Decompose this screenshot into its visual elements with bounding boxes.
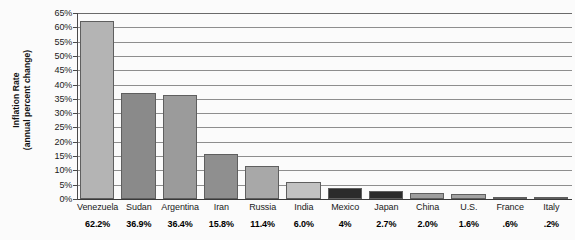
- y-axis-tick-label: 60%: [55, 22, 72, 32]
- y-axis-tick-mark: [73, 56, 77, 57]
- y-axis-title-line1: Inflation Rate: [11, 72, 21, 127]
- category-label: Japan: [366, 201, 407, 214]
- y-axis-tick-label: 55%: [55, 37, 72, 47]
- x-axis-labels-row: Venezuela62.2%Sudan36.9%Argentina36.4%Ir…: [77, 201, 572, 240]
- category-label: Mexico: [325, 201, 366, 214]
- y-axis-tick-mark: [73, 42, 77, 43]
- x-axis-label-cell: France.6%: [490, 201, 531, 231]
- x-axis-label-cell: Iran15.8%: [201, 201, 242, 231]
- x-axis-label-cell: Mexico4%: [325, 201, 366, 231]
- bar-value-label: 6.0%: [283, 217, 324, 231]
- category-label: France: [490, 201, 531, 214]
- y-axis-tick-label: 25%: [55, 122, 72, 132]
- x-axis-label-cell: U.S.1.6%: [448, 201, 489, 231]
- x-axis-label-cell: Argentina36.4%: [160, 201, 201, 231]
- bar: [121, 93, 155, 199]
- y-axis-tick-label: 50%: [55, 51, 72, 61]
- x-axis-label-cell: India6.0%: [283, 201, 324, 231]
- bar-chart: Inflation Rate (annual percent change) 6…: [0, 0, 575, 240]
- y-axis-title-line2: (annual percent change): [22, 50, 33, 151]
- x-axis-label-cell: Italy.2%: [531, 201, 572, 231]
- bar-value-label: 15.8%: [201, 217, 242, 231]
- y-axis-tick-label: 15%: [55, 151, 72, 161]
- bar-value-label: 36.4%: [160, 217, 201, 231]
- bar: [410, 193, 444, 199]
- category-label: India: [283, 201, 324, 214]
- y-axis-tick-mark: [73, 185, 77, 186]
- y-axis-tick-mark: [73, 127, 77, 128]
- y-axis-tick-label: 30%: [55, 108, 72, 118]
- x-axis-label-cell: Venezuela62.2%: [77, 201, 118, 231]
- y-axis-tick-mark: [73, 27, 77, 28]
- category-label: U.S.: [448, 201, 489, 214]
- y-axis-tick-label: 20%: [55, 137, 72, 147]
- category-label: Argentina: [160, 201, 201, 214]
- category-label: Iran: [201, 201, 242, 214]
- x-axis-label-cell: Sudan36.9%: [118, 201, 159, 231]
- y-axis-tick-label: 35%: [55, 94, 72, 104]
- bar: [534, 197, 568, 199]
- category-label: China: [407, 201, 448, 214]
- y-axis-tick-mark: [73, 99, 77, 100]
- y-axis-tick-mark: [73, 142, 77, 143]
- y-axis-tick-mark: [73, 85, 77, 86]
- y-axis-tick-label: 45%: [55, 65, 72, 75]
- y-axis-title: Inflation Rate (annual percent change): [0, 0, 44, 200]
- x-axis-label-cell: Japan2.7%: [366, 201, 407, 231]
- bar-value-label: 2.7%: [366, 217, 407, 231]
- y-axis-tick-mark: [73, 156, 77, 157]
- bar: [204, 154, 238, 199]
- bar-value-label: 4%: [325, 217, 366, 231]
- bar: [163, 95, 197, 199]
- bar-value-label: 1.6%: [448, 217, 489, 231]
- category-label: Sudan: [118, 201, 159, 214]
- y-axis-tick-label: 5%: [59, 180, 72, 190]
- bar: [369, 191, 403, 199]
- category-label: Russia: [242, 201, 283, 214]
- bar: [328, 188, 362, 199]
- y-axis-tick-label: 10%: [55, 165, 72, 175]
- y-axis-tick-mark: [73, 199, 77, 200]
- bars-group: [77, 13, 572, 199]
- bar-value-label: .6%: [490, 217, 531, 231]
- y-axis-tick-labels: 65%60%55%50%45%40%35%30%25%20%15%10%5%0%: [44, 13, 75, 199]
- gridline: [77, 199, 572, 200]
- category-label: Italy: [531, 201, 572, 214]
- y-axis-tick-label: 40%: [55, 80, 72, 90]
- y-axis-tick-label: 0%: [59, 194, 72, 204]
- bar: [286, 182, 320, 199]
- bar-value-label: 62.2%: [77, 217, 118, 231]
- plot-area: [77, 13, 572, 199]
- y-axis-tick-mark: [73, 113, 77, 114]
- bar-value-label: 2.0%: [407, 217, 448, 231]
- bar: [493, 197, 527, 199]
- bar: [80, 21, 114, 199]
- bar-value-label: 36.9%: [118, 217, 159, 231]
- y-axis-tick-mark: [73, 13, 77, 14]
- bar-value-label: 11.4%: [242, 217, 283, 231]
- category-label: Venezuela: [77, 201, 118, 214]
- bar: [451, 194, 485, 199]
- x-axis-label-cell: Russia11.4%: [242, 201, 283, 231]
- bar: [245, 166, 279, 199]
- y-axis-tick-mark: [73, 70, 77, 71]
- y-axis-tick-label: 65%: [55, 8, 72, 18]
- x-axis-label-cell: China2.0%: [407, 201, 448, 231]
- bar-value-label: .2%: [531, 217, 572, 231]
- y-axis-tick-mark: [73, 170, 77, 171]
